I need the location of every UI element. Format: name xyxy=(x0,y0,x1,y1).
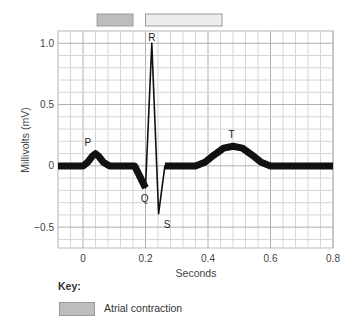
y-tick-label: 0.5 xyxy=(40,99,54,110)
key-swatch-atrial-contraction xyxy=(59,302,95,316)
interval-bar-atrial-contraction xyxy=(97,14,133,26)
wave-label-t: T xyxy=(228,129,234,140)
y-tick-label: 1.0 xyxy=(40,38,54,49)
x-axis-title: Seconds xyxy=(176,267,217,279)
y-axis-title: Millivolts (mV) xyxy=(19,107,31,172)
y-axis-ticks: 1.00.50−0.5 xyxy=(34,38,54,233)
ecg-chart: 00.20.40.60.8 1.00.50−0.5 PQRST Seconds … xyxy=(0,0,361,316)
wave-label-p: P xyxy=(85,137,92,148)
interval-bars xyxy=(97,14,222,26)
x-tick-label: 0.6 xyxy=(264,253,278,264)
y-tick-label: 0 xyxy=(48,160,54,171)
x-tick-label: 0.8 xyxy=(326,253,340,264)
x-tick-label: 0 xyxy=(80,253,86,264)
grid xyxy=(58,31,333,248)
wave-label-q: Q xyxy=(141,193,149,204)
y-tick-label: −0.5 xyxy=(34,222,54,233)
x-axis-ticks: 00.20.40.60.8 xyxy=(80,253,340,264)
x-tick-label: 0.4 xyxy=(201,253,215,264)
interval-bar-ventricular-contraction xyxy=(146,14,223,26)
key-title: Key: xyxy=(58,280,81,292)
wave-label-s: S xyxy=(164,219,171,230)
key-label-atrial-contraction: Atrial contraction xyxy=(104,302,182,314)
wave-label-r: R xyxy=(148,32,155,43)
x-tick-label: 0.2 xyxy=(139,253,153,264)
